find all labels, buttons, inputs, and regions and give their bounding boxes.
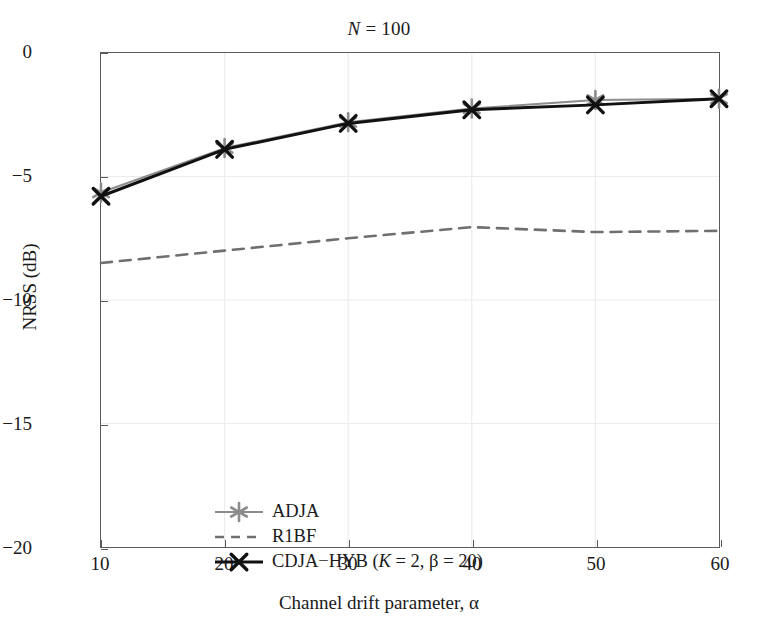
chart-title-symbol: N <box>348 18 361 39</box>
x-axis-label: Channel drift parameter, α <box>0 592 758 614</box>
y-tick-label-0: 0 <box>23 41 33 63</box>
x-tick-label-50: 50 <box>587 553 606 575</box>
legend-sample-cdja-hyb <box>213 551 265 573</box>
x-tick-mark-50 <box>597 540 598 547</box>
y-tick-mark-neg20 <box>101 549 108 550</box>
chart-figure: N = 100 NRSS (dB) Channel drift paramete… <box>0 0 758 634</box>
series-adja <box>93 90 727 202</box>
legend-label-cdja-hyb: CDJA−HYB (K = 2, β = 20) <box>272 549 483 574</box>
series-cdja−hyb <box>93 91 727 204</box>
y-tick-mark-neg15 <box>101 425 108 426</box>
legend-label-adja: ADJA <box>272 499 319 524</box>
x-tick-mark-20 <box>225 540 226 547</box>
y-tick-label-neg20: −20 <box>2 537 32 559</box>
legend-cdja-suffix: = 20) <box>439 551 483 571</box>
x-tick-mark-30 <box>349 540 350 547</box>
legend-cdja-prefix: CDJA−HYB ( <box>272 551 379 571</box>
series-layer <box>101 53 719 547</box>
legend-cdja-mid: = 2, <box>391 551 429 571</box>
legend-item-cdja-hyb[interactable]: CDJA−HYB (K = 2, β = 20) <box>213 549 483 574</box>
legend-sample-r1bf <box>213 526 265 548</box>
chart-title: N = 100 <box>0 18 758 40</box>
x-tick-label-60: 60 <box>711 553 730 575</box>
chart-legend: ADJA R1BF CDJA−HYB (K = 2, β = 20) <box>213 499 483 574</box>
x-tick-mark-60 <box>721 540 722 547</box>
y-axis-label: NRSS (dB) <box>19 187 41 387</box>
x-tick-label-10: 10 <box>91 553 110 575</box>
legend-cdja-symbol-beta: β <box>429 551 438 571</box>
y-tick-label-neg10: −10 <box>2 289 32 311</box>
y-tick-label-neg5: −5 <box>12 165 32 187</box>
chart-title-value: = 100 <box>360 18 410 39</box>
legend-cdja-symbol-k: K <box>379 551 391 571</box>
y-tick-mark-neg5 <box>101 177 108 178</box>
legend-label-r1bf: R1BF <box>272 524 316 549</box>
series-r1bf <box>101 227 719 263</box>
y-tick-mark-0 <box>101 53 108 54</box>
y-tick-mark-neg10 <box>101 301 108 302</box>
x-tick-mark-10 <box>101 540 102 547</box>
plot-area: ADJA R1BF CDJA−HYB (K = 2, β = 20) <box>100 52 720 548</box>
x-tick-mark-40 <box>473 540 474 547</box>
legend-item-adja[interactable]: ADJA <box>213 499 483 524</box>
legend-item-r1bf[interactable]: R1BF <box>213 524 483 549</box>
y-tick-label-neg15: −15 <box>2 413 32 435</box>
legend-sample-adja <box>213 501 265 523</box>
